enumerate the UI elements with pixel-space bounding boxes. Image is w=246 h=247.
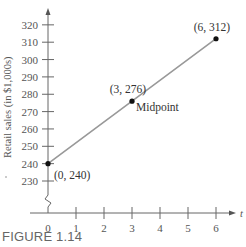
x-axis-arrow-icon [229,211,236,216]
figure-caption: FIGURE 1.14 [2,229,82,244]
y-tick-label: 260 [22,123,39,135]
y-tick-label: 290 [22,71,39,83]
stray-dot [5,176,7,178]
data-point-marker [213,36,218,41]
y-tick-label: 270 [22,106,39,118]
x-tick-label: 5 [185,222,191,234]
y-tick-label: 300 [22,54,39,66]
y-tick-label: 240 [22,158,39,170]
y-axis-label: Retail sales (in $1,000s) [2,56,14,158]
y-axis-arrow-icon [46,8,51,15]
data-points: (0, 240)(3, 276)Midpoint(6, 312) [45,21,230,182]
x-tick-label: 2 [101,222,107,234]
data-point-label: (0, 240) [54,169,91,182]
data-point-label: (3, 276) [110,83,147,96]
data-point-marker [129,99,134,104]
axis-break-icon [45,190,51,213]
y-axis: 230240250260270280290300310320 [22,8,55,213]
y-tick-label: 230 [22,175,39,187]
data-point-marker [45,161,50,166]
x-tick-label: 4 [157,222,163,234]
data-point-label: (6, 312) [194,21,231,34]
y-tick-label: 310 [22,36,39,48]
chart: 230240250260270280290300310320 t 0123456… [0,0,246,247]
x-tick-label: 3 [129,222,135,234]
midpoint-annotation: Midpoint [136,101,180,114]
y-tick-label: 250 [22,140,39,152]
y-tick-label: 320 [22,19,39,31]
x-tick-label: 6 [213,222,219,234]
x-axis-label: t [240,208,244,219]
y-tick-label: 280 [22,88,39,100]
